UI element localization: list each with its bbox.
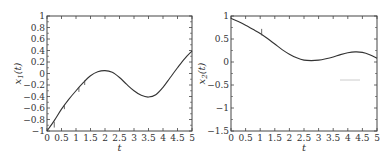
x-tick-label: 5 [189,133,195,143]
y-tick-label: 1 [223,11,229,21]
y-tick-label: 0.5 [215,34,230,44]
y-tick-label: 0 [223,57,229,67]
y-tick-label: −1 [216,103,229,113]
y-tick-label: −0.8 [23,115,45,125]
y-tick-label: −1.5 [207,126,229,136]
y-tick-label: −0.2 [23,80,45,90]
x-tick-label: 3.5 [141,133,156,143]
x-tick-label: 0.5 [238,133,253,143]
x-tick-label: 1 [73,133,79,143]
series-line [231,18,377,60]
x-tick-label: 1.5 [268,133,283,143]
x-tick-label: 0.5 [54,133,69,143]
y-tick-label: 1 [39,11,45,21]
y-tick-label: 0.2 [31,57,45,67]
plot-x2: 00.511.522.533.544.55−1.5−1−0.500.51tx2(… [196,11,380,153]
plot-frame [231,16,377,131]
x-tick-label: 3 [316,133,322,143]
y-tick-label: 0.4 [31,46,46,56]
x-tick-label: 4.5 [170,133,185,143]
y-tick-label: 0.6 [31,34,46,44]
y-tick-label: −0.4 [23,92,45,102]
y-tick-label: −1 [32,126,45,136]
x-tick-label: 5 [374,133,380,143]
y-tick-label: 0 [39,69,45,79]
x-axis-label: t [117,142,122,153]
x-tick-label: 1.5 [83,133,98,143]
x-tick-label: 4 [345,133,351,143]
x-axis-label: t [302,142,307,153]
x-tick-label: 3.5 [326,133,341,143]
x-tick-label: 4.5 [355,133,370,143]
plot-frame [47,16,192,131]
x-tick-label: 3 [131,133,137,143]
x-tick-label: 0 [44,133,50,143]
y-tick-label: −0.5 [207,80,229,90]
y-tick-label: 0.8 [31,23,46,33]
y-tick-label: −0.6 [23,103,45,113]
plot-x1: 00.511.522.533.544.55−1−0.8−0.6−0.4−0.20… [12,11,195,153]
x-tick-label: 1 [257,133,263,143]
x-tick-label: 4 [160,133,166,143]
x-tick-label: 0 [228,133,234,143]
series-line [47,51,192,131]
chart-canvas: 00.511.522.533.544.55−1−0.8−0.6−0.4−0.20… [0,0,388,158]
x-tick-label: 2 [102,133,108,143]
x-tick-label: 2 [287,133,293,143]
